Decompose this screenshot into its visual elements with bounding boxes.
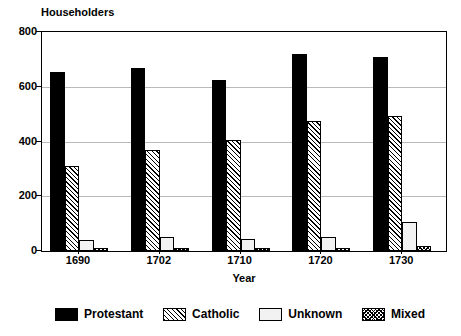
bar-group [284,32,365,251]
y-axis-tick-label: 0 [3,245,37,256]
legend: ProtestantCatholicUnknownMixed [55,303,425,325]
y-axis-title: Householders [41,6,114,18]
bar-mixed-1720 [336,248,351,251]
bar-protestant-1690 [50,72,65,251]
legend-label: Mixed [391,308,425,321]
x-axis-tick-label: 1720 [308,254,332,266]
bar-catholic-1710 [226,140,241,251]
bar-unknown-1690 [79,240,94,251]
legend-label: Unknown [288,308,342,321]
y-axis-tick-label: 200 [3,190,37,201]
y-axis-tick-label: 800 [3,26,37,37]
bar-unknown-1702 [160,237,175,251]
bar-group [365,32,446,251]
bar-protestant-1702 [131,68,146,251]
legend-swatch-catholic-icon [163,308,186,321]
x-axis-tick-label: 1702 [147,254,171,266]
x-axis-tick-label: 1730 [389,254,413,266]
x-axis-tick-mark [78,249,79,254]
x-axis-title: Year [41,272,447,284]
bar-chart: Householders 0200400600800 1690170217101… [0,0,461,336]
bar-catholic-1720 [307,121,322,251]
legend-swatch-protestant-icon [55,308,78,321]
x-axis-tick-mark [401,249,402,254]
bar-catholic-1730 [388,116,403,252]
bar-group [123,32,204,251]
y-axis-tick-label: 400 [3,135,37,146]
legend-label: Catholic [192,308,239,321]
bar-mixed-1710 [255,248,270,251]
bar-catholic-1702 [145,150,160,251]
y-axis: 0200400600800 [0,31,37,250]
x-axis-tick-mark [320,249,321,254]
y-axis-tick-label: 600 [3,80,37,91]
bar-protestant-1710 [212,80,227,251]
bar-mixed-1730 [417,246,432,251]
bar-group [204,32,285,251]
bar-mixed-1702 [174,248,189,251]
legend-swatch-unknown-icon [259,308,282,321]
bar-protestant-1720 [292,54,307,251]
bar-unknown-1730 [402,222,417,251]
bar-unknown-1710 [241,239,256,251]
legend-swatch-mixed-icon [362,308,385,321]
x-axis-tick-label: 1710 [227,254,251,266]
plot-area [41,31,447,252]
x-axis-tick-mark [159,249,160,254]
bar-mixed-1690 [94,248,109,251]
bar-catholic-1690 [65,166,80,251]
bar-protestant-1730 [373,57,388,251]
legend-item-mixed: Mixed [362,308,425,321]
x-axis: 16901702171017201730 [41,254,447,270]
legend-item-protestant: Protestant [55,308,143,321]
legend-item-catholic: Catholic [163,308,239,321]
x-axis-tick-label: 1690 [66,254,90,266]
bar-unknown-1720 [321,237,336,251]
x-axis-tick-mark [240,249,241,254]
bar-group [42,32,123,251]
legend-item-unknown: Unknown [259,308,342,321]
legend-label: Protestant [84,308,143,321]
plot-inner [42,32,446,251]
